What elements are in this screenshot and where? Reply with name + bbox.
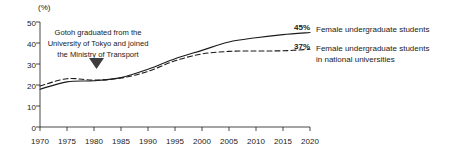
y-tick-marks [36,22,40,127]
plot-area [0,0,451,158]
chart-container: (%) 50 40 30 20 10 0 1970 1975 1980 1985… [0,0,451,158]
x-tick-marks [40,127,310,131]
down-triangle-icon [89,58,104,69]
